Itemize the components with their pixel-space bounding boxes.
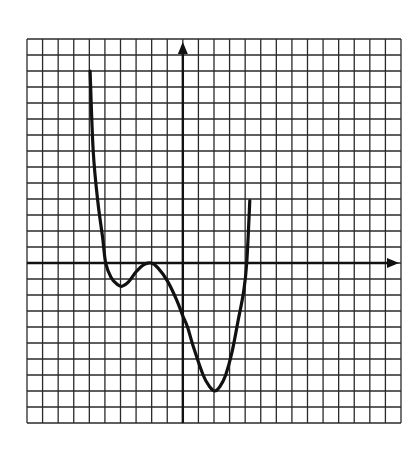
grid-lines (27, 39, 401, 423)
y-axis-arrow-icon (178, 42, 188, 54)
function-graph (0, 0, 412, 456)
axes (27, 42, 399, 423)
graph-canvas (0, 0, 412, 456)
x-axis-arrow-icon (387, 258, 399, 268)
